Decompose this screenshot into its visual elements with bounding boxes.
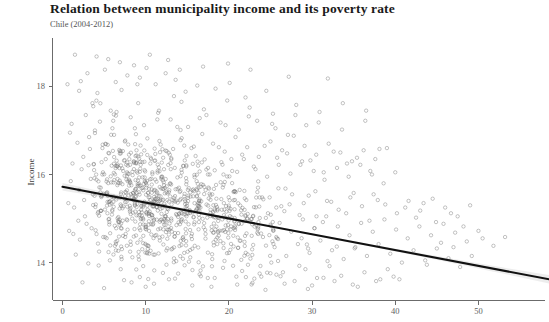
scatter-point: [236, 236, 239, 239]
scatter-point: [176, 272, 179, 275]
scatter-point: [243, 208, 246, 211]
scatter-point: [419, 209, 422, 212]
scatter-point: [243, 244, 246, 247]
scatter-point: [223, 259, 226, 262]
scatter-point: [318, 110, 321, 113]
scatter-point: [304, 267, 307, 270]
scatter-point: [326, 259, 329, 262]
scatter-point: [422, 201, 425, 204]
scatter-point: [280, 149, 283, 152]
scatter-point: [335, 245, 338, 248]
scatter-point: [170, 203, 173, 206]
scatter-point: [214, 87, 217, 90]
scatter-point: [77, 219, 80, 222]
scatter-point: [429, 234, 432, 237]
scatter-point: [210, 285, 213, 288]
scatter-point: [97, 264, 100, 267]
scatter-point: [201, 65, 204, 68]
scatter-point: [104, 157, 107, 160]
scatter-point: [193, 176, 196, 179]
scatter-point: [425, 263, 428, 266]
scatter-point: [188, 228, 191, 231]
scatter-point: [395, 212, 398, 215]
scatter-point: [157, 252, 160, 255]
scatter-point: [194, 154, 197, 157]
scatter-point: [115, 159, 118, 162]
scatter-point: [317, 121, 320, 124]
scatter-point: [183, 251, 186, 254]
scatter-point: [150, 183, 153, 186]
scatter-point: [306, 247, 309, 250]
scatter-point: [307, 194, 310, 197]
scatter-point: [477, 229, 480, 232]
scatter-point: [187, 223, 190, 226]
scatter-point: [269, 213, 272, 216]
scatter-point: [465, 240, 468, 243]
scatter-point: [144, 285, 147, 288]
scatter-point: [298, 264, 301, 267]
scatter-point: [283, 209, 286, 212]
scatter-point: [434, 220, 437, 223]
scatter-point: [243, 254, 246, 257]
scatter-point: [244, 275, 247, 278]
x-tick-label: 10: [141, 306, 150, 316]
scatter-point: [351, 283, 354, 286]
scatter-point: [295, 103, 298, 106]
scatter-point: [77, 89, 80, 92]
scatter-point: [322, 171, 325, 174]
scatter-point: [435, 247, 438, 250]
scatter-point: [198, 116, 201, 119]
scatter-point: [206, 251, 209, 254]
scatter-point: [109, 175, 112, 178]
scatter-point: [103, 208, 106, 211]
scatter-point: [168, 222, 171, 225]
scatter-point: [112, 162, 115, 165]
scatter-point: [137, 258, 140, 261]
scatter-point: [154, 152, 157, 155]
scatter-point: [278, 221, 281, 224]
y-tick-label: 16: [37, 170, 46, 180]
scatter-point: [258, 216, 261, 219]
scatter-point: [342, 257, 345, 260]
scatter-point: [234, 135, 237, 138]
scatter-point: [315, 276, 318, 279]
scatter-point: [258, 205, 261, 208]
scatter-point: [300, 160, 303, 163]
scatter-point: [156, 118, 159, 121]
scatter-point: [136, 241, 139, 244]
scatter-point: [237, 128, 240, 131]
scatter-point: [214, 183, 217, 186]
scatter-point: [271, 112, 274, 115]
scatter-point: [148, 53, 151, 56]
scatter-point: [135, 149, 138, 152]
scatter-point: [349, 196, 352, 199]
scatter-point: [139, 153, 142, 156]
scatter-point: [118, 61, 121, 64]
scatter-point: [341, 101, 344, 104]
scatter-point: [146, 137, 149, 140]
scatter-point: [196, 160, 199, 163]
scatter-point: [235, 283, 238, 286]
scatter-point: [112, 253, 115, 256]
regression-line: [62, 187, 549, 279]
scatter-point: [173, 277, 176, 280]
scatter-point: [230, 181, 233, 184]
scatter-point: [201, 217, 204, 220]
scatter-point: [81, 281, 84, 284]
scatter-point: [101, 146, 104, 149]
scatter-point: [129, 240, 132, 243]
scatter-point: [198, 216, 201, 219]
scatter-point: [87, 262, 90, 265]
scatter-point: [310, 284, 313, 287]
scatter-point: [167, 278, 170, 281]
scatter-point: [256, 180, 259, 183]
scatter-point: [322, 276, 325, 279]
scatter-point: [112, 119, 115, 122]
scatter-point: [293, 279, 296, 282]
scatter-point: [321, 220, 324, 223]
scatter-point: [204, 237, 207, 240]
scatter-point: [95, 232, 98, 235]
scatter-point: [153, 269, 156, 272]
scatter-point: [269, 140, 272, 143]
scatter-point: [109, 109, 112, 112]
